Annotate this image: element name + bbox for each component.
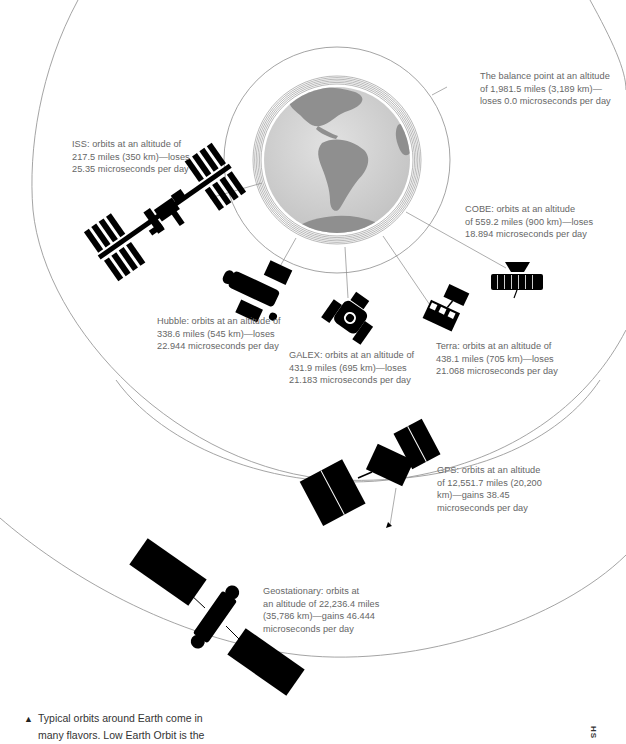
label-line: 18.894 microseconds per day	[465, 228, 593, 241]
label-line: The balance point at an altitude	[480, 70, 611, 83]
geostationary-label: Geostationary: orbits at an altitude of …	[263, 585, 379, 635]
figure-caption: ▲Typical orbits around Earth come in man…	[24, 711, 204, 743]
label-line: 217.5 miles (350 km)—loses	[72, 151, 190, 164]
caption-line-2: many flavors. Low Earth Orbit is the	[24, 728, 204, 744]
label-line: of 559.2 miles (900 km)—loses	[465, 216, 593, 229]
label-line: an altitude of 22,236.4 miles	[263, 598, 379, 611]
label-line: ISS: orbits at an altitude of	[72, 138, 190, 151]
cobe-label: COBE: orbits at an altitude of 559.2 mil…	[465, 203, 593, 241]
label-line: of 12,551.7 miles (20,200	[437, 477, 542, 490]
label-line: km)—gains 38.45	[437, 489, 542, 502]
label-line: of 1,981.5 miles (3,189 km)—	[480, 83, 611, 96]
label-line: 438.1 miles (705 km)—loses	[436, 353, 558, 366]
terra-satellite-icon	[423, 280, 470, 332]
label-line: Geostationary: orbits at	[263, 585, 379, 598]
gps-label: GPS: orbits at an altitude of 12,551.7 m…	[437, 464, 542, 514]
caption-line-1: ▲Typical orbits around Earth come in	[24, 711, 204, 728]
iss-label: ISS: orbits at an altitude of 217.5 mile…	[72, 138, 190, 176]
label-line: 25.35 microseconds per day	[72, 163, 190, 176]
label-line: microseconds per day	[263, 623, 379, 636]
triangle-marker-icon: ▲	[24, 712, 38, 728]
label-line: loses 0.0 microseconds per day	[480, 95, 611, 108]
label-line: COBE: orbits at an altitude	[465, 203, 593, 216]
label-line: Terra: orbits at an altitude of	[436, 340, 558, 353]
side-running-tag: HS	[589, 726, 598, 739]
terra-label: Terra: orbits at an altitude of 438.1 mi…	[436, 340, 558, 378]
label-line: GALEX: orbits at an altitude of	[289, 349, 414, 362]
galex-satellite-icon	[321, 284, 384, 345]
label-line: 21.068 microseconds per day	[436, 365, 558, 378]
terra-leader	[383, 236, 432, 308]
label-line: 22.944 microseconds per day	[157, 340, 281, 353]
label-line: microseconds per day	[437, 502, 542, 515]
label-line: 338.6 miles (545 km)—loses	[157, 328, 281, 341]
cobe-satellite-icon	[491, 262, 543, 298]
gps-antenna-line	[390, 488, 396, 525]
caption-text: Typical orbits around Earth come in	[38, 712, 203, 724]
label-line: Hubble: orbits at an altitude of	[157, 315, 281, 328]
label-line: 21.183 microseconds per day	[289, 374, 414, 387]
label-line: (35,786 km)—gains 46.444	[263, 610, 379, 623]
hubble-label: Hubble: orbits at an altitude of 338.6 m…	[157, 315, 281, 353]
galex-label: GALEX: orbits at an altitude of 431.9 mi…	[289, 349, 414, 387]
balance-leader	[432, 87, 447, 95]
balance-point-label: The balance point at an altitude of 1,98…	[480, 70, 611, 108]
gps-satellite-icon	[300, 419, 441, 528]
label-line: 431.9 miles (695 km)—loses	[289, 362, 414, 375]
label-line: GPS: orbits at an altitude	[437, 464, 542, 477]
